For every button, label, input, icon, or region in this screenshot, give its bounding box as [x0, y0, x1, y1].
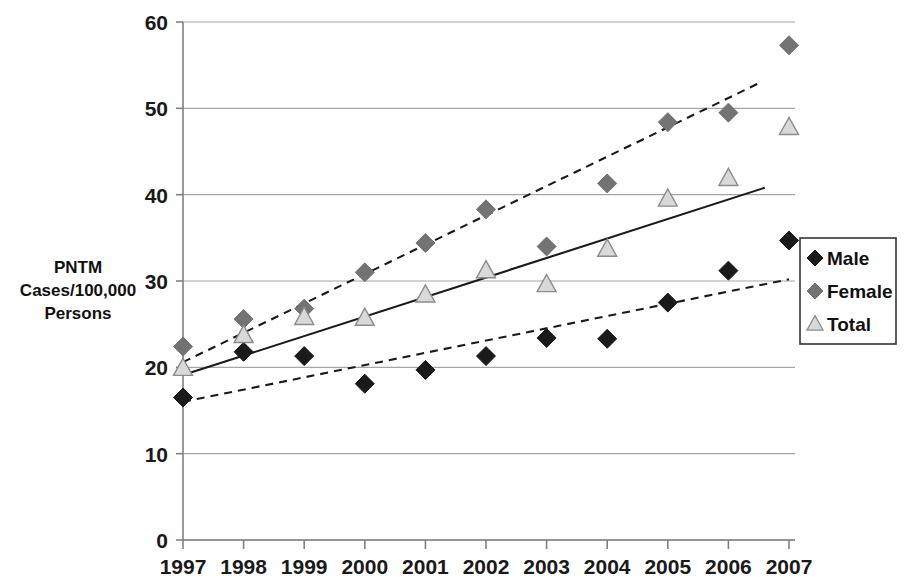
y-tick-label: 60 — [145, 11, 168, 34]
y-tick-label: 20 — [145, 356, 168, 379]
chart-root: 0102030405060 19971998199920002001200220… — [0, 0, 904, 581]
legend-label-female: Female — [827, 281, 892, 302]
x-tick-label: 1999 — [281, 555, 328, 578]
y-tick-label: 0 — [156, 529, 168, 552]
chart-legend: MaleFemaleTotal — [800, 238, 896, 344]
y-tick-label: 40 — [145, 184, 168, 207]
x-tick-label: 2001 — [402, 555, 449, 578]
x-tick-label: 2000 — [341, 555, 388, 578]
x-tick-label: 1997 — [160, 555, 207, 578]
pntm-cases-scatter-chart: 0102030405060 19971998199920002001200220… — [0, 0, 904, 581]
y-axis-title-line: PNTM — [54, 258, 102, 277]
legend-label-male: Male — [827, 248, 869, 269]
x-tick-label: 2004 — [584, 555, 631, 578]
y-axis-title-line: Persons — [44, 304, 111, 323]
y-axis-title-line: Cases/100,000 — [20, 281, 136, 300]
x-tick-label: 2007 — [766, 555, 813, 578]
x-tick-label: 2006 — [705, 555, 752, 578]
x-tick-label: 2005 — [644, 555, 691, 578]
y-tick-label: 30 — [145, 270, 168, 293]
x-tick-label: 2002 — [463, 555, 510, 578]
x-axis-tick-labels: 1997199819992000200120022003200420052006… — [160, 555, 813, 578]
x-tick-label: 2003 — [523, 555, 570, 578]
y-tick-label: 50 — [145, 97, 168, 120]
legend-label-total: Total — [827, 314, 871, 335]
y-tick-label: 10 — [145, 443, 168, 466]
x-tick-label: 1998 — [220, 555, 267, 578]
